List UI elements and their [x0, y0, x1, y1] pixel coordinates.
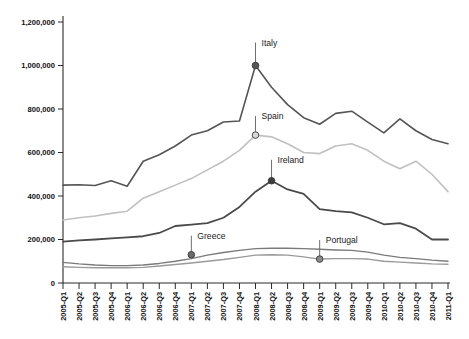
x-tick-label: 2006-Q3	[155, 292, 164, 321]
x-tick-label: 2006-Q2	[139, 292, 148, 321]
x-tick-label: 2006-Q4	[171, 291, 180, 321]
y-tick-label: 200,000	[28, 235, 55, 244]
x-tick-label: 2005-Q1	[59, 292, 68, 321]
y-tick-label: 800,000	[28, 105, 55, 114]
x-tick-label: 2009-Q1	[316, 292, 325, 321]
series-line-ireland	[63, 181, 448, 242]
y-tick-label: 1,000,000	[21, 61, 55, 70]
x-tick-label: 2010-Q4	[428, 291, 437, 321]
x-tick-label: 2010-Q3	[412, 292, 421, 321]
series-label-greece: Greece	[197, 231, 225, 241]
series-label-portugal: Portugal	[326, 235, 358, 245]
data-point-marker-italy[interactable]	[252, 62, 259, 69]
y-tick-label: 600,000	[28, 148, 55, 157]
x-tick-label: 2005-Q2	[75, 292, 84, 321]
x-tick-label: 2005-Q3	[91, 292, 100, 321]
x-tick-label: 2008-Q2	[268, 292, 277, 321]
series-label-ireland: Ireland	[278, 155, 304, 165]
y-tick-label: 0	[51, 279, 55, 288]
data-point-marker-ireland[interactable]	[268, 177, 275, 184]
series-line-greece	[63, 248, 448, 265]
x-tick-label: 2006-Q1	[123, 292, 132, 321]
x-tick-label: 2008-Q3	[284, 292, 293, 321]
y-axis-labels: 1,200,0001,000,000800,000600,000400,0002…	[21, 18, 55, 288]
data-point-marker-greece[interactable]	[188, 251, 195, 258]
y-tick-label: 1,200,000	[21, 18, 55, 27]
series-lines	[63, 66, 448, 268]
x-tick-label: 2008-Q4	[300, 291, 309, 321]
x-tick-label: 2009-Q2	[332, 292, 341, 321]
x-tick-label: 2005-Q4	[107, 291, 116, 321]
x-tick-label: 2009-Q4	[364, 291, 373, 321]
x-tick-label: 2010-Q2	[396, 292, 405, 321]
y-axis-ticks	[58, 22, 63, 283]
line-chart: 1,200,0001,000,000800,000600,000400,0002…	[0, 0, 469, 339]
y-tick-label: 400,000	[28, 192, 55, 201]
data-point-marker-spain[interactable]	[252, 132, 259, 139]
x-tick-label: 2007-Q3	[219, 292, 228, 321]
series-annotations: ItalySpainIrelandGreecePortugal	[188, 38, 358, 263]
x-tick-label: 2007-Q1	[187, 292, 196, 321]
x-tick-label: 2011-Q1	[444, 292, 453, 320]
x-axis-labels: 2005-Q12005-Q22005-Q32005-Q42006-Q12006-…	[59, 291, 453, 321]
series-label-spain: Spain	[262, 111, 284, 121]
chart-container: 1,200,0001,000,000800,000600,000400,0002…	[0, 0, 469, 339]
x-tick-label: 2007-Q2	[203, 292, 212, 321]
series-label-italy: Italy	[262, 38, 278, 48]
x-tick-label: 2007-Q4	[235, 291, 244, 321]
x-tick-label: 2009-Q3	[348, 292, 357, 321]
series-line-spain	[63, 135, 448, 220]
x-axis-ticks	[63, 283, 448, 289]
x-tick-label: 2008-Q1	[252, 292, 261, 321]
axis-lines	[63, 16, 450, 283]
data-point-marker-portugal[interactable]	[316, 256, 323, 263]
x-tick-label: 2010-Q1	[380, 292, 389, 321]
